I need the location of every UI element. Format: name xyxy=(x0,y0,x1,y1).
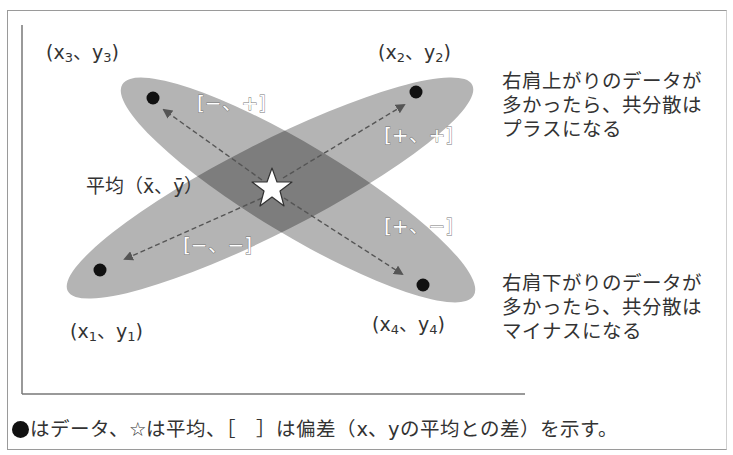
mean-label: 平均（x̄、ȳ） xyxy=(86,177,204,196)
covariance-diagram: [−、+] [+、+] [−、−] [+、−] xyxy=(0,0,733,455)
data-point-p2 xyxy=(410,86,423,99)
point-label-p3: (x3、y3) xyxy=(46,43,119,64)
deviation-label-p2: [+、+] xyxy=(384,123,453,147)
deviation-label-p1: [−、−] xyxy=(183,233,252,257)
deviation-label-p4: [+、−] xyxy=(384,214,453,238)
note-line: マイナスになる xyxy=(502,320,702,344)
note-line: 右肩上がりのデータが xyxy=(502,70,702,94)
note-line: 右肩下がりのデータが xyxy=(502,272,702,296)
data-point-p1 xyxy=(94,264,107,277)
data-point-p4 xyxy=(417,279,430,292)
negative-covariance-note: 右肩下がりのデータが 多かったら、共分散は マイナスになる xyxy=(502,272,702,344)
positive-covariance-note: 右肩上がりのデータが 多かったら、共分散は プラスになる xyxy=(502,70,702,142)
data-point-p3 xyxy=(147,92,160,105)
figure-caption: はデータ、☆は平均、［ ］は偏差（x、yの平均との差）を示す。 xyxy=(12,413,618,442)
note-line: 多かったら、共分散は xyxy=(502,296,702,320)
data-dot-icon xyxy=(12,421,29,438)
point-label-p4: (x4、y4) xyxy=(372,315,445,336)
note-line: プラスになる xyxy=(502,118,702,142)
caption-text: はデータ、☆は平均、［ ］は偏差（x、yの平均との差）を示す。 xyxy=(30,418,618,441)
point-label-p1: (x1、y1) xyxy=(70,322,143,343)
deviation-label-p3: [−、+] xyxy=(197,91,266,115)
point-label-p2: (x2、y2) xyxy=(378,43,451,64)
note-line: 多かったら、共分散は xyxy=(502,94,702,118)
